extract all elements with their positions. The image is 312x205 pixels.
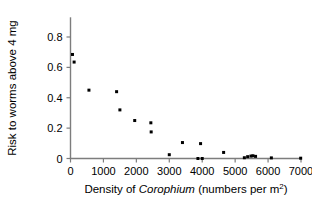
data-point — [118, 108, 121, 111]
chart-canvas: 00.20.40.60.8 01000200030004000500060007… — [0, 0, 312, 205]
x-tick-label: 3000 — [157, 165, 181, 177]
x-tick-label: 4000 — [190, 165, 214, 177]
y-tick-label: 0.6 — [47, 61, 62, 73]
data-point — [150, 130, 153, 133]
data-point — [270, 156, 273, 159]
x-tick-label: 0 — [67, 165, 73, 177]
data-point — [196, 157, 199, 160]
data-point — [168, 153, 171, 156]
data-point — [73, 61, 76, 64]
data-point — [251, 154, 254, 157]
x-tick-label: 6000 — [256, 165, 280, 177]
x-axis-ticks: 01000200030004000500060007000 — [67, 159, 312, 177]
x-tick-label: 2000 — [124, 165, 148, 177]
x-axis-title-tail: ) — [284, 183, 288, 195]
x-axis-title: Density of Corophium (numbers per m2) — [84, 182, 287, 195]
data-points-layer — [71, 53, 302, 160]
data-point — [71, 53, 74, 56]
y-tick-label: 0.8 — [47, 31, 62, 43]
y-axis-title: Risk to worms above 4 mg — [6, 20, 18, 156]
x-tick-label: 5000 — [223, 165, 247, 177]
data-point — [222, 151, 225, 154]
y-tick-label: 0.2 — [47, 122, 62, 134]
scatter-plot-figure: 00.20.40.60.8 01000200030004000500060007… — [0, 0, 312, 205]
x-axis-title-prefix: Density of — [84, 183, 138, 195]
data-point — [246, 155, 249, 158]
y-tick-label: 0.4 — [47, 92, 62, 104]
x-tick-label: 1000 — [91, 165, 115, 177]
data-point — [299, 157, 302, 160]
chart-axes — [71, 18, 302, 159]
x-axis-title-species: Corophium — [139, 183, 196, 195]
data-point — [149, 121, 152, 124]
data-point — [199, 142, 202, 145]
data-point — [87, 89, 90, 92]
data-point — [181, 141, 184, 144]
data-point — [133, 119, 136, 122]
x-axis-title-suffix: (numbers per m — [195, 183, 279, 195]
y-axis-ticks: 00.20.40.60.8 — [47, 31, 70, 165]
x-tick-label: 7000 — [289, 165, 312, 177]
y-tick-label: 0 — [56, 153, 62, 165]
data-point — [115, 90, 118, 93]
data-point — [201, 157, 204, 160]
data-point — [254, 155, 257, 158]
data-point — [243, 156, 246, 159]
